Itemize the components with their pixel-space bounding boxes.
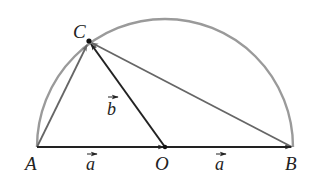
semicircle-vector-diagram: C A O B b a a (0, 0, 312, 177)
vector-label-b: b (107, 97, 118, 119)
point-o-dot (163, 145, 167, 149)
label-a: A (23, 153, 37, 174)
segment-bc (92, 43, 292, 147)
label-c: C (73, 21, 86, 42)
svg-text:a: a (86, 154, 95, 174)
segment-ac (37, 45, 87, 147)
vector-label-a-right: a (215, 154, 226, 174)
point-c-dot (86, 38, 91, 43)
svg-text:a: a (215, 154, 224, 174)
label-o: O (155, 153, 169, 174)
label-b: B (285, 153, 297, 174)
vector-b-oc (91, 44, 165, 147)
svg-text:b: b (107, 99, 116, 119)
vector-label-a-left: a (86, 154, 97, 174)
